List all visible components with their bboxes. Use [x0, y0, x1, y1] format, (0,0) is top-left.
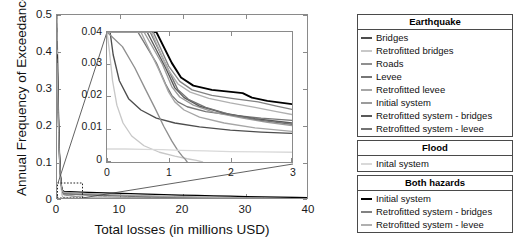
line-swatch-icon — [361, 115, 372, 117]
legend-item-both-initial-system[interactable]: Initial system — [358, 192, 512, 205]
legend-group-flood: Flood Inital system — [357, 140, 513, 172]
legend-item-bridges[interactable]: Bridges — [358, 31, 512, 44]
x-tick-mark — [307, 194, 308, 198]
inset-y-tick-label-3: 0.03 — [70, 58, 102, 67]
line-swatch-icon — [361, 224, 372, 226]
inset-x-tick-label-1: 1 — [157, 166, 181, 178]
legend-item-label: Retrofitted system - bridges — [376, 110, 492, 121]
legend-group-items: Initial system Retrofitted system - brid… — [358, 191, 512, 232]
legend-item-label: Initial system — [376, 97, 431, 108]
legend-item-label: Bridges — [376, 32, 408, 43]
legend-item-both-retrofitted-system-bridges[interactable]: Retrofitted system - bridges — [358, 205, 512, 218]
inset-y-tick-label-0: 0 — [70, 155, 102, 164]
figure-root: Annual Frequency of Exceedance Total los… — [0, 0, 518, 245]
legend-item-retrofitted-levee[interactable]: Retrofitted levee — [358, 83, 512, 96]
y-tick-mark — [57, 199, 61, 200]
legend-group-title: Earthquake — [358, 15, 512, 30]
inset-x-tick-label-3: 3 — [281, 166, 305, 178]
inset-y-tick-label-2: 0.02 — [70, 90, 102, 99]
y-tick-mark — [303, 199, 307, 200]
legend-item-label: Levee — [376, 71, 402, 82]
y-tick-label-3: 0.3 — [22, 83, 52, 93]
y-tick-label-2: 0.2 — [22, 120, 52, 130]
inset-y-tick-label-1: 0.01 — [70, 122, 102, 131]
y-tick-label-5: 0.5 — [22, 9, 52, 19]
inset-y-tick-label-4: 0.04 — [70, 27, 102, 36]
y-tick-label-4: 0.4 — [22, 46, 52, 56]
line-swatch-icon — [361, 128, 372, 130]
inset-curves — [107, 32, 292, 162]
x-tick-label-4: 40 — [293, 203, 323, 215]
inset-x-tick-label-2: 2 — [219, 166, 243, 178]
legend-item-label: Retrofitted system - levee — [376, 219, 484, 230]
legend-item-label: Initial system — [376, 193, 431, 204]
line-swatch-icon — [361, 63, 372, 65]
legend-item-retrofitted-bridges[interactable]: Retrofitted bridges — [358, 44, 512, 57]
x-tick-label-0: 0 — [41, 203, 71, 215]
legend-item-roads[interactable]: Roads — [358, 57, 512, 70]
line-swatch-icon — [361, 163, 372, 165]
inset-x-tick-label-0: 0 — [95, 166, 119, 178]
x-tick-label-1: 10 — [104, 203, 134, 215]
legend-item-levee[interactable]: Levee — [358, 70, 512, 83]
legend-item-initial-system[interactable]: Initial system — [358, 96, 512, 109]
legend-item-label: Retrofitted system - bridges — [376, 206, 492, 217]
legend-item-label: Roads — [376, 58, 403, 69]
line-swatch-icon — [361, 37, 372, 39]
x-tick-label-2: 20 — [167, 203, 197, 215]
inset-plot-area — [106, 31, 293, 163]
legend-item-retrofitted-system-levee[interactable]: Retrofitted system - levee — [358, 122, 512, 135]
line-swatch-icon — [361, 198, 372, 200]
legend-item-both-retrofitted-system-levee[interactable]: Retrofitted system - levee — [358, 218, 512, 231]
line-swatch-icon — [361, 76, 372, 78]
legend-group-earthquake: Earthquake Bridges Retrofitted bridges R… — [357, 14, 513, 137]
legend: Earthquake Bridges Retrofitted bridges R… — [357, 14, 513, 236]
line-swatch-icon — [361, 89, 372, 91]
legend-group-title: Both hazards — [358, 176, 512, 191]
legend-item-label: Inital system — [376, 158, 429, 169]
main-chart: Annual Frequency of Exceedance Total los… — [0, 0, 348, 245]
legend-group-both-hazards: Both hazards Initial system Retrofitted … — [357, 175, 513, 233]
x-axis-label: Total losses (in millions USD) — [56, 222, 308, 237]
line-swatch-icon — [361, 50, 372, 52]
x-tick-label-3: 30 — [230, 203, 260, 215]
y-tick-label-1: 0.1 — [22, 157, 52, 167]
y-axis-label: Annual Frequency of Exceedance — [14, 11, 29, 196]
legend-group-items: Bridges Retrofitted bridges Roads Levee … — [358, 30, 512, 136]
legend-item-label: Retrofitted system - levee — [376, 123, 484, 134]
line-swatch-icon — [361, 211, 372, 213]
legend-item-label: Retrofitted bridges — [376, 45, 454, 56]
legend-item-retrofitted-system-bridges[interactable]: Retrofitted system - bridges — [358, 109, 512, 122]
line-swatch-icon — [361, 102, 372, 104]
legend-item-label: Retrofitted levee — [376, 84, 445, 95]
legend-group-title: Flood — [358, 141, 512, 156]
legend-group-items: Inital system — [358, 156, 512, 171]
legend-item-flood-inital-system[interactable]: Inital system — [358, 157, 512, 170]
